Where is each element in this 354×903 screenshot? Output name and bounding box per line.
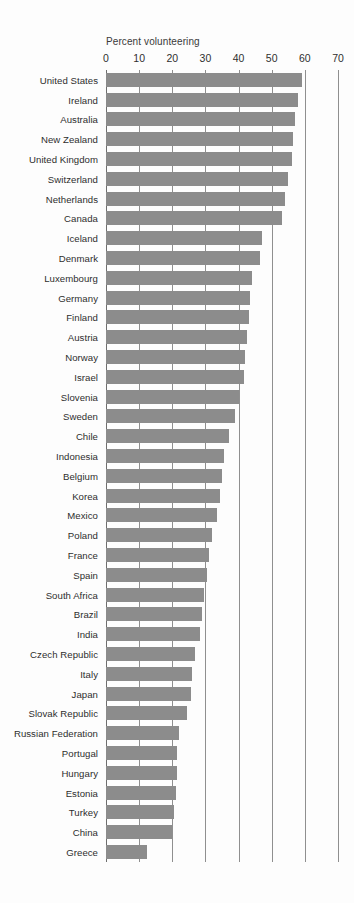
bar-row: New Zealand xyxy=(0,129,354,149)
category-label: South Africa xyxy=(46,589,98,600)
bar-row: Indonesia xyxy=(0,446,354,466)
bar xyxy=(106,429,229,443)
bar-row: United States xyxy=(0,70,354,90)
bar-row: Ireland xyxy=(0,90,354,110)
bar-row: Belgium xyxy=(0,466,354,486)
bar-row: Austria xyxy=(0,327,354,347)
bar-row: Poland xyxy=(0,525,354,545)
category-label: Greece xyxy=(66,847,98,858)
bar xyxy=(106,370,244,384)
bar-row: France xyxy=(0,545,354,565)
category-label: New Zealand xyxy=(41,134,98,145)
bar xyxy=(106,310,249,324)
bar xyxy=(106,112,295,126)
bar-row: Chile xyxy=(0,426,354,446)
category-label: Chile xyxy=(76,431,98,442)
category-label: Luxembourg xyxy=(44,272,98,283)
category-label: Indonesia xyxy=(56,451,98,462)
bar xyxy=(106,568,207,582)
category-label: Czech Republic xyxy=(30,649,98,660)
bar-row: Sweden xyxy=(0,407,354,427)
bar xyxy=(106,706,187,720)
category-label: Belgium xyxy=(63,470,98,481)
bar-row: India xyxy=(0,624,354,644)
bar xyxy=(106,330,247,344)
category-label: Denmark xyxy=(59,253,98,264)
bar xyxy=(106,73,302,87)
bar-row: Hungary xyxy=(0,763,354,783)
category-label: Israel xyxy=(74,371,98,382)
bar-row: Israel xyxy=(0,367,354,387)
bar xyxy=(106,528,212,542)
bar xyxy=(106,449,224,463)
bar xyxy=(106,508,217,522)
bar-row: Brazil xyxy=(0,605,354,625)
bar-row: South Africa xyxy=(0,585,354,605)
category-label: Italy xyxy=(80,668,98,679)
bar xyxy=(106,667,192,681)
bar xyxy=(106,271,252,285)
category-label: Netherlands xyxy=(46,193,98,204)
bar-row: Russian Federation xyxy=(0,723,354,743)
category-label: Hungary xyxy=(61,767,98,778)
category-label: Iceland xyxy=(67,233,98,244)
category-label: United States xyxy=(40,74,98,85)
category-label: China xyxy=(73,827,98,838)
bar-row: Iceland xyxy=(0,228,354,248)
bar xyxy=(106,647,195,661)
bar-row: Netherlands xyxy=(0,189,354,209)
bar-row: Luxembourg xyxy=(0,268,354,288)
category-label: Slovak Republic xyxy=(28,708,98,719)
bar-row: Korea xyxy=(0,486,354,506)
bar xyxy=(106,211,282,225)
category-label: Norway xyxy=(65,352,98,363)
category-label: Sweden xyxy=(63,411,98,422)
bar xyxy=(106,627,200,641)
bar xyxy=(106,251,260,265)
bar-row: Estonia xyxy=(0,783,354,803)
bar xyxy=(106,409,235,423)
bar-row: Mexico xyxy=(0,506,354,526)
bar xyxy=(106,172,288,186)
category-label: Russian Federation xyxy=(14,728,98,739)
category-label: Spain xyxy=(73,569,98,580)
bar xyxy=(106,132,293,146)
bar xyxy=(106,93,298,107)
bar-row: Greece xyxy=(0,842,354,862)
bar xyxy=(106,805,174,819)
category-label: Switzerland xyxy=(48,173,98,184)
bar xyxy=(106,469,222,483)
bar-row: Australia xyxy=(0,110,354,130)
bar xyxy=(106,231,262,245)
category-label: Austria xyxy=(68,332,98,343)
bar xyxy=(106,390,239,404)
category-label: Mexico xyxy=(67,510,98,521)
bar-row: Switzerland xyxy=(0,169,354,189)
bar xyxy=(106,548,209,562)
category-label: Estonia xyxy=(66,787,98,798)
bar-row: Czech Republic xyxy=(0,644,354,664)
bar-row: Slovenia xyxy=(0,387,354,407)
bar-row: Italy xyxy=(0,664,354,684)
category-label: Ireland xyxy=(68,94,98,105)
category-label: India xyxy=(77,629,98,640)
bar-row: China xyxy=(0,822,354,842)
bar-row: Portugal xyxy=(0,743,354,763)
category-label: Korea xyxy=(72,490,98,501)
category-label: Australia xyxy=(60,114,98,125)
bar xyxy=(106,726,179,740)
bar-row: Spain xyxy=(0,565,354,585)
bar xyxy=(106,786,176,800)
bar xyxy=(106,687,191,701)
bar xyxy=(106,489,220,503)
category-label: Brazil xyxy=(74,609,98,620)
bar xyxy=(106,766,177,780)
bar xyxy=(106,152,292,166)
bar-row: Denmark xyxy=(0,248,354,268)
bar-row: Slovak Republic xyxy=(0,704,354,724)
category-label: France xyxy=(68,550,98,561)
bar-rows: United StatesIrelandAustraliaNew Zealand… xyxy=(0,0,354,903)
bar-row: Finland xyxy=(0,308,354,328)
bar-row: Canada xyxy=(0,209,354,229)
category-label: Germany xyxy=(58,292,98,303)
